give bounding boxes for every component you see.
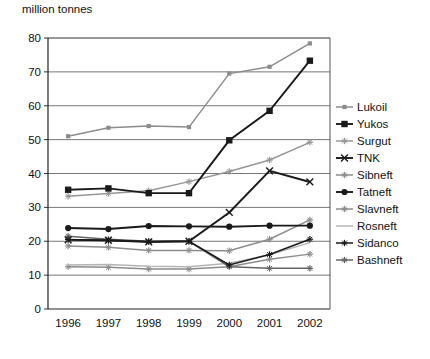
- legend-marker-lukoil-icon: [336, 101, 353, 113]
- legend-item-tatneft[interactable]: Tatneft: [336, 183, 430, 200]
- data-point: [105, 244, 111, 250]
- data-point: [105, 226, 111, 232]
- line-chart: million tonnes 0102030405060708019961997…: [0, 0, 430, 359]
- data-point: [341, 257, 347, 263]
- data-point: [341, 240, 347, 246]
- data-point: [186, 223, 192, 229]
- data-point: [147, 124, 151, 128]
- data-point: [186, 247, 192, 253]
- legend-label: Rosneft: [357, 220, 397, 232]
- legend-item-rosneft[interactable]: Rosneft: [336, 218, 430, 235]
- data-point: [308, 41, 312, 45]
- y-axis-tick-label: 80: [28, 32, 41, 44]
- data-point: [341, 206, 347, 212]
- data-point: [227, 71, 231, 75]
- y-axis-tick-label: 40: [28, 168, 41, 180]
- data-point: [266, 108, 272, 114]
- data-point: [226, 209, 233, 216]
- legend-label: Tatneft: [357, 186, 392, 198]
- data-point: [341, 120, 347, 126]
- legend-marker-tnk-icon: [336, 152, 353, 164]
- data-point: [146, 190, 152, 196]
- data-point: [307, 251, 313, 257]
- y-axis-tick-label: 60: [28, 100, 41, 112]
- data-point: [186, 190, 192, 196]
- legend-marker-surgut-icon: [336, 135, 353, 147]
- data-point: [266, 223, 272, 229]
- series-line-lukoil: [68, 43, 310, 136]
- legend-item-sidanco[interactable]: Sidanco: [336, 235, 430, 252]
- x-axis-tick-label: 1999: [176, 317, 202, 329]
- legend-label: Sibneft: [357, 169, 393, 181]
- legend-marker-rosneft-icon: [336, 220, 353, 232]
- legend-marker-bashneft-icon: [336, 254, 353, 266]
- y-axis-tick-label: 30: [28, 201, 41, 213]
- legend-label: TNK: [357, 152, 380, 164]
- x-axis-tick-label: 2001: [257, 317, 283, 329]
- legend-label: Slavneft: [357, 203, 399, 215]
- data-point: [105, 185, 111, 191]
- data-point: [307, 265, 313, 271]
- data-point: [307, 139, 313, 145]
- y-axis-tick-label: 20: [28, 235, 41, 247]
- data-point: [266, 251, 272, 257]
- legend-marker-sidanco-icon: [336, 237, 353, 249]
- legend-marker-slavneft-icon: [336, 203, 353, 215]
- data-point: [146, 223, 152, 229]
- data-point: [307, 236, 313, 242]
- legend-marker-sibneft-icon: [336, 169, 353, 181]
- x-axis-tick-label: 1997: [96, 317, 122, 329]
- legend-label: Yukos: [357, 118, 388, 130]
- data-point: [341, 138, 347, 144]
- data-point: [266, 236, 272, 242]
- legend-marker-tatneft-icon: [336, 186, 353, 198]
- x-axis-tick-label: 2000: [216, 317, 242, 329]
- data-point: [65, 193, 71, 199]
- y-axis-tick-label: 10: [28, 269, 41, 281]
- legend-item-sibneft[interactable]: Sibneft: [336, 166, 430, 183]
- data-point: [226, 168, 232, 174]
- x-axis-tick-label: 2002: [297, 317, 323, 329]
- legend-item-bashneft[interactable]: Bashneft: [336, 252, 430, 269]
- data-point: [266, 265, 272, 271]
- data-point: [266, 157, 272, 163]
- data-point: [146, 247, 152, 253]
- data-point: [187, 125, 191, 129]
- data-point: [226, 262, 232, 268]
- legend-item-yukos[interactable]: Yukos: [336, 115, 430, 132]
- data-point: [307, 223, 313, 229]
- data-point: [267, 65, 271, 69]
- legend-item-slavneft[interactable]: Slavneft: [336, 201, 430, 218]
- data-point: [65, 187, 71, 193]
- data-point: [341, 189, 347, 195]
- data-point: [226, 224, 232, 230]
- legend-item-tnk[interactable]: TNK: [336, 149, 430, 166]
- y-axis-tick-label: 50: [28, 134, 41, 146]
- y-axis-tick-label: 70: [28, 66, 41, 78]
- x-axis-tick-label: 1998: [136, 317, 162, 329]
- legend-marker-yukos-icon: [336, 118, 353, 130]
- legend-item-surgut[interactable]: Surgut: [336, 132, 430, 149]
- y-axis-tick-label: 0: [35, 303, 41, 315]
- data-point: [307, 57, 313, 63]
- legend-item-lukoil[interactable]: Lukoil: [336, 98, 430, 115]
- data-point: [341, 172, 347, 178]
- data-point: [65, 225, 71, 231]
- data-point: [66, 134, 70, 138]
- data-point: [226, 137, 232, 143]
- data-point: [226, 248, 232, 254]
- chart-legend: LukoilYukosSurgutTNKSibneftTatneftSlavne…: [336, 98, 430, 269]
- legend-label: Bashneft: [357, 254, 402, 266]
- data-point: [106, 126, 110, 130]
- data-point: [342, 104, 346, 108]
- legend-label: Lukoil: [357, 101, 387, 113]
- data-point: [65, 243, 71, 249]
- x-axis-tick-label: 1996: [55, 317, 81, 329]
- legend-label: Surgut: [357, 135, 391, 147]
- series-line-rosneft: [68, 243, 310, 267]
- data-point: [186, 178, 192, 184]
- legend-label: Sidanco: [357, 237, 399, 249]
- data-point: [307, 217, 313, 223]
